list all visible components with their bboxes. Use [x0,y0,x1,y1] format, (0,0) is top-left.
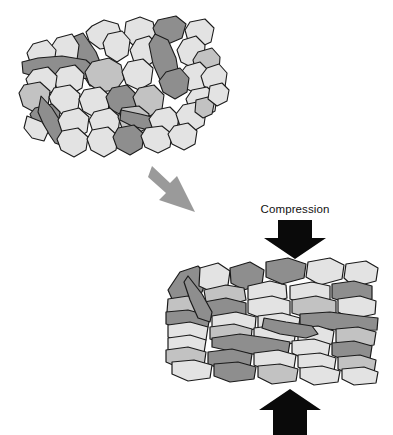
diagram-canvas: Compression [0,0,393,435]
compression-label-group: Compression [261,203,330,215]
compacted-clast [214,362,256,382]
compression-label: Compression [261,203,330,215]
compacted-clast [342,367,378,385]
compacted-sediment-mass [166,258,378,385]
compression-diagram-figure: Compression [0,0,393,435]
